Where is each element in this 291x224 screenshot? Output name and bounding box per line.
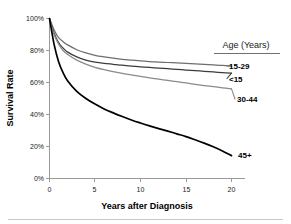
series-label-under-15: <15 — [229, 75, 243, 84]
x-tick-label: 5 — [93, 186, 97, 193]
curve-15-29 — [50, 19, 232, 67]
series-label-45-plus: 45+ — [238, 151, 252, 160]
y-tick-label: 80% — [30, 47, 44, 54]
legend-title: Age (Years) — [222, 40, 269, 50]
curve-45- — [50, 19, 232, 156]
y-tick-labels: 100% 80% 60% 40% 20% 0% — [26, 15, 44, 182]
leader-30-44 — [232, 89, 236, 99]
y-tick-label: 100% — [26, 15, 44, 22]
x-tick-label: 0 — [48, 186, 52, 193]
chart-canvas: 100% 80% 60% 40% 20% 0% 0 5 10 15 20 Yea… — [0, 0, 291, 224]
x-tick-label: 15 — [183, 186, 191, 193]
x-tick-label: 20 — [228, 186, 236, 193]
y-tick-label: 20% — [30, 143, 44, 150]
data-curves — [50, 19, 236, 156]
y-axis-title: Survival Rate — [5, 69, 15, 126]
series-label-15-29: 15-29 — [229, 62, 250, 71]
x-axis-title: Years after Diagnosis — [101, 201, 193, 211]
y-tick-label: 0% — [34, 175, 44, 182]
x-tick-label: 10 — [137, 186, 145, 193]
legend: Age (Years) 15-29 <15 30-44 45+ — [214, 40, 280, 160]
y-tick-label: 40% — [30, 111, 44, 118]
y-tick-label: 60% — [30, 79, 44, 86]
curve-30-44 — [50, 19, 232, 89]
y-tick-marks — [46, 19, 50, 179]
x-tick-labels: 0 5 10 15 20 — [48, 186, 236, 193]
survival-curve-figure: 100% 80% 60% 40% 20% 0% 0 5 10 15 20 Yea… — [0, 0, 291, 224]
x-tick-marks — [50, 179, 232, 183]
series-label-30-44: 30-44 — [237, 95, 258, 104]
